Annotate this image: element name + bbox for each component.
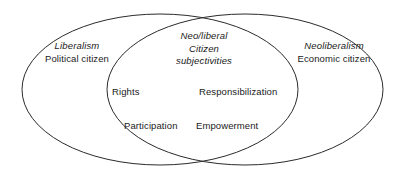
intersection-term-empowerment: Empowerment (196, 120, 258, 131)
right-set-name: Neoliberalism (280, 40, 388, 53)
intersection-heading-line-3: subjectivities (152, 55, 256, 68)
intersection-term-responsibilization: Responsibilization (199, 86, 277, 97)
right-set-subtitle: Economic citizen (280, 53, 388, 66)
left-set-name: Liberalism (28, 40, 126, 53)
intersection-heading: Neo/liberal Citizen subjectivities (152, 30, 256, 68)
left-set-subtitle: Political citizen (28, 53, 126, 66)
intersection-heading-line-1: Neo/liberal (152, 30, 256, 43)
intersection-heading-line-2: Citizen (152, 43, 256, 56)
intersection-term-rights: Rights (112, 86, 140, 97)
left-set-label: Liberalism Political citizen (28, 40, 126, 65)
intersection-term-participation: Participation (124, 120, 178, 131)
right-set-label: Neoliberalism Economic citizen (280, 40, 388, 65)
venn-diagram-figure: Liberalism Political citizen Neoliberali… (0, 0, 405, 178)
